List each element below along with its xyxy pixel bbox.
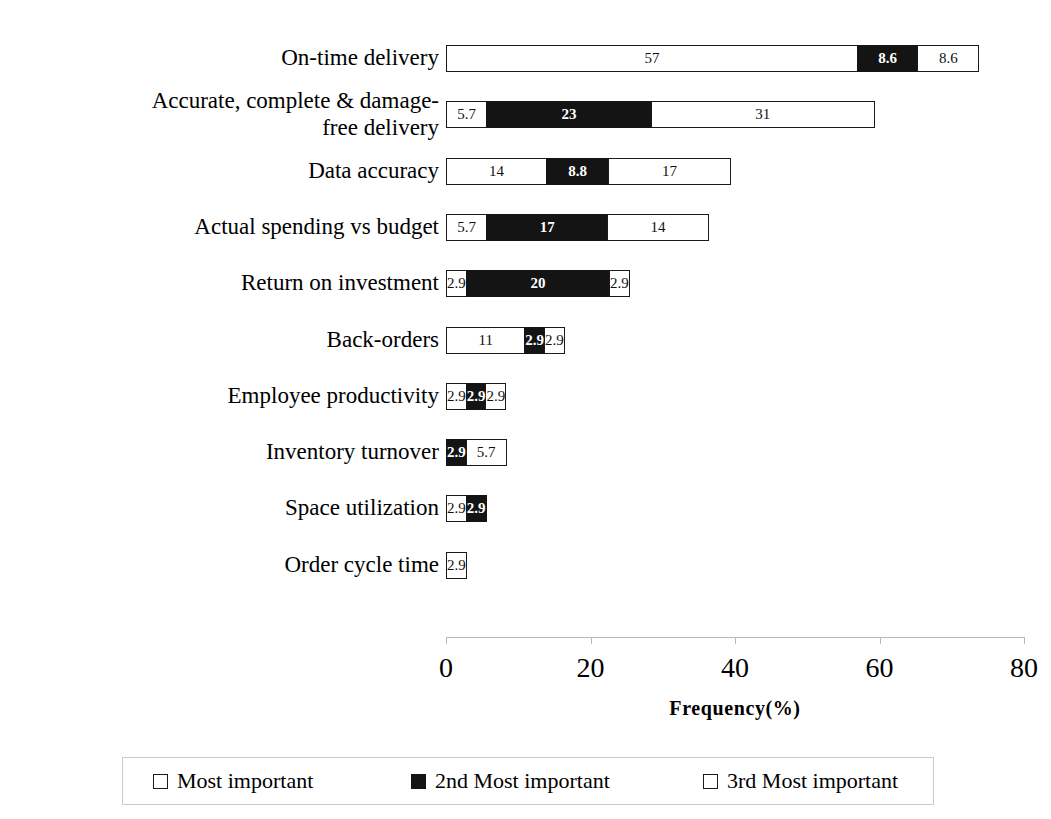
bar-segment[interactable]: 2.9 [485,383,506,410]
bar-segment-value: 2.9 [486,389,505,404]
legend-label: 2nd Most important [435,769,610,793]
bar-segment[interactable]: 8.6 [857,45,919,72]
x-axis-tick [446,637,447,644]
bar-segment-value: 8.8 [568,164,587,179]
category-label: Back-orders [9,326,439,353]
stacked-bar[interactable]: 2.9202.9 [446,270,630,297]
stacked-bar[interactable]: 112.92.9 [446,327,565,354]
bar-segment[interactable]: 57 [446,45,858,72]
plot-area: On-time delivery578.68.6Accurate, comple… [0,0,1051,645]
bar-segment[interactable]: 2.9 [466,383,487,410]
bar-segment[interactable]: 2.9 [446,270,467,297]
bar-segment-value: 5.7 [457,220,476,235]
stacked-bar[interactable]: 2.92.92.9 [446,383,506,410]
bar-segment-value: 2.9 [447,276,466,291]
x-axis-title: Frequency(%) [446,697,1024,720]
chart-legend: Most important2nd Most important3rd Most… [122,757,934,805]
bar-segment-value: 2.9 [545,333,564,348]
bar-segment-value: 11 [479,333,493,348]
bar-segment[interactable]: 5.7 [466,439,507,466]
bar-segment[interactable]: 5.7 [446,101,487,128]
bar-segment[interactable]: 23 [486,101,652,128]
x-axis-tick-label: 0 [406,652,486,684]
bar-segment[interactable]: 11 [446,327,525,354]
stacked-bar[interactable]: 578.68.6 [446,45,979,72]
bar-row: Employee productivity2.92.92.9 [0,383,1051,439]
bar-row: Actual spending vs budget5.71714 [0,214,1051,270]
category-label: Inventory turnover [9,438,439,465]
bar-segment-value: 23 [561,107,576,122]
stacked-bar[interactable]: 2.92.9 [446,495,487,522]
x-axis-tick-label: 20 [551,652,631,684]
bar-row: Back-orders112.92.9 [0,327,1051,383]
legend-item[interactable]: 2nd Most important [411,769,610,793]
bar-segment-value: 2.9 [467,389,486,404]
bar-segment-value: 2.9 [447,558,466,573]
bar-segment-value: 17 [662,164,677,179]
bar-row: Order cycle time2.9 [0,552,1051,608]
stacked-bar[interactable]: 2.9 [446,552,467,579]
bar-row: Data accuracy148.817 [0,158,1051,214]
legend-item[interactable]: 3rd Most important [703,769,898,793]
category-label: Actual spending vs budget [9,213,439,240]
bar-segment-value: 5.7 [477,445,496,460]
bar-segment-value: 2.9 [447,445,466,460]
bar-segment-value: 8.6 [878,51,897,66]
x-axis-tick-label: 60 [840,652,920,684]
bar-segment-value: 20 [530,276,545,291]
bar-segment-value: 57 [644,51,659,66]
bar-segment[interactable]: 14 [607,214,708,241]
category-label: Order cycle time [9,551,439,578]
bar-segment-value: 31 [755,107,770,122]
bar-row: Space utilization2.92.9 [0,495,1051,551]
stacked-bar[interactable]: 5.72331 [446,101,875,128]
category-label: Space utilization [9,494,439,521]
x-axis-tick-label: 80 [984,652,1051,684]
bar-segment-value: 14 [650,220,665,235]
bar-segment[interactable]: 20 [466,270,611,297]
bar-row: Return on investment2.9202.9 [0,270,1051,326]
bar-row: Inventory turnover2.95.7 [0,439,1051,495]
legend-swatch-icon [153,774,168,789]
x-axis-tick [591,637,592,644]
bar-segment[interactable]: 17 [486,214,609,241]
category-label: Data accuracy [9,157,439,184]
bar-segment[interactable]: 2.9 [446,495,467,522]
bar-segment[interactable]: 2.9 [446,552,467,579]
legend-item[interactable]: Most important [153,769,313,793]
category-label: On-time delivery [9,44,439,71]
bar-segment-value: 2.9 [525,333,544,348]
bar-segment[interactable]: 8.6 [917,45,979,72]
stacked-bar[interactable]: 5.71714 [446,214,709,241]
bar-segment[interactable]: 2.9 [544,327,565,354]
bar-segment[interactable]: 2.9 [466,495,487,522]
legend-label: 3rd Most important [727,769,898,793]
x-axis-tick [735,637,736,644]
stacked-bar[interactable]: 2.95.7 [446,439,507,466]
bar-segment[interactable]: 2.9 [609,270,630,297]
bar-segment[interactable]: 2.9 [446,383,467,410]
bar-segment-value: 2.9 [467,501,486,516]
bar-segment-value: 2.9 [447,501,466,516]
legend-label: Most important [177,769,313,793]
category-label: Accurate, complete & damage- free delive… [9,87,439,141]
bar-segment[interactable]: 2.9 [524,327,545,354]
bar-row: Accurate, complete & damage- free delive… [0,101,1051,157]
bar-segment[interactable]: 17 [608,158,731,185]
bar-segment-value: 17 [540,220,555,235]
category-label: Return on investment [9,269,439,296]
x-axis-tick [1024,637,1025,644]
bar-segment[interactable]: 14 [446,158,547,185]
bar-segment[interactable]: 8.8 [546,158,610,185]
stacked-bar-chart: On-time delivery578.68.6Accurate, comple… [0,0,1051,819]
legend-swatch-icon [411,774,426,789]
category-label: Employee productivity [9,382,439,409]
stacked-bar[interactable]: 148.817 [446,158,731,185]
bar-segment[interactable]: 2.9 [446,439,467,466]
bar-segment[interactable]: 31 [651,101,875,128]
x-axis-tick [880,637,881,644]
bar-segment[interactable]: 5.7 [446,214,487,241]
x-axis-tick-label: 40 [695,652,775,684]
bar-segment-value: 2.9 [610,276,629,291]
legend-swatch-icon [703,774,718,789]
